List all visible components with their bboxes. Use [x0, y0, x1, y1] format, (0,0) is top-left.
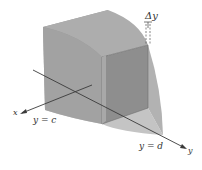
y-equals-c-label: y = c [32, 115, 56, 125]
delta-y-label: Δy [144, 10, 158, 21]
x-axis-label: x [13, 108, 18, 117]
solid-diagram: Δy x y y = c y = d [0, 0, 202, 170]
slab-edge [102, 55, 106, 124]
y-axis-label: y [187, 146, 193, 155]
y-axis-arrow-icon [180, 144, 187, 149]
y-equals-d-label: y = d [138, 141, 163, 151]
x-axis-arrow-icon [20, 109, 27, 114]
